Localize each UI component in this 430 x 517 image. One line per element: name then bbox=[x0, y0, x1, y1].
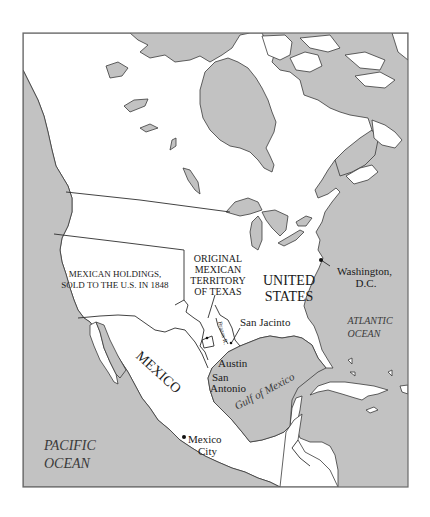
atlantic-ocean-label: ATLANTIC bbox=[346, 315, 393, 326]
pacific-ocean-label-2: OCEAN bbox=[44, 456, 91, 471]
san-jacinto-marker bbox=[230, 342, 233, 345]
austin-marker bbox=[206, 337, 209, 340]
san-jacinto-label: San Jacinto bbox=[240, 316, 291, 328]
mexican-holdings-label-2: SOLD TO THE U.S. IN 1848 bbox=[61, 280, 169, 290]
mexico-city-label: Mexico bbox=[188, 433, 222, 445]
mexico-city-label-2: City bbox=[198, 445, 217, 457]
united-states-label: UNITED bbox=[263, 273, 315, 288]
united-states-label-2: STATES bbox=[265, 289, 314, 304]
texas-territory-label: ORIGINAL bbox=[194, 253, 242, 264]
texas-territory-label-4: OF TEXAS bbox=[194, 286, 241, 297]
washington-dc-label-2: D.C. bbox=[356, 277, 377, 289]
mexican-holdings-label: MEXICAN HOLDINGS, bbox=[69, 269, 162, 279]
map: MEXICAN HOLDINGS, SOLD TO THE U.S. IN 18… bbox=[0, 0, 430, 517]
san-antonio-label-2: Antonio bbox=[210, 382, 247, 394]
washington-dc-marker bbox=[319, 258, 323, 262]
mexico-city-marker bbox=[182, 435, 186, 439]
atlantic-ocean-label-2: OCEAN bbox=[348, 328, 382, 339]
texas-territory-label-2: MEXICAN bbox=[195, 264, 242, 275]
austin-label: Austin bbox=[218, 357, 248, 369]
texas-territory-label-3: TERRITORY bbox=[190, 275, 245, 286]
washington-dc-label: Washington, bbox=[337, 265, 392, 277]
pacific-ocean-label: PACIFIC bbox=[43, 438, 97, 453]
